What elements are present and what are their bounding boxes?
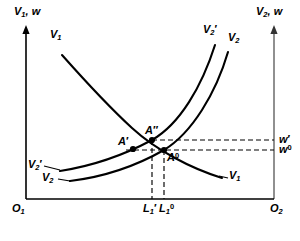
l1z-sup: 0: [170, 202, 174, 211]
economics-diagram: V1, w V2, w V1 V1 V2′ V2 V2′ V2 A″ A′ A0…: [0, 0, 300, 241]
a2-prime: ″: [153, 124, 158, 136]
a1-letter: A: [118, 135, 126, 147]
leader-v2-left: [58, 179, 70, 181]
leader-v2-prime-left: [44, 166, 60, 170]
o1-letter: O: [12, 202, 21, 214]
curve-label-v1-bottom: V1: [229, 170, 241, 182]
o1-sub: 1: [21, 207, 25, 216]
curve-label-v2-left: V2: [42, 172, 54, 184]
curve-v2-prime: [60, 45, 215, 171]
v2-left-sub: 2: [49, 176, 53, 185]
tick-label-l1-prime: L1′: [143, 203, 157, 215]
a0-letter: A: [167, 151, 175, 163]
curve-label-v2-prime-left: V2′: [28, 159, 42, 171]
point-label-a-zero: A0: [167, 152, 179, 163]
left-axis-arrowhead: [22, 25, 29, 34]
w-zero-letter: w: [279, 143, 288, 155]
l1p-letter: L: [143, 202, 150, 214]
a0-sup: 0: [175, 151, 179, 160]
v1-top-sub: 1: [57, 33, 61, 42]
left-axis-title: V1, w: [14, 6, 40, 18]
v2-top-sub: 2: [235, 36, 239, 45]
o2-sub: 2: [279, 207, 283, 216]
point-label-a-double-prime: A″: [145, 125, 158, 136]
l1p-prime: ′: [154, 202, 157, 214]
curve-label-v2-top: V2: [228, 32, 240, 44]
curve-label-v2-prime-top: V2′: [203, 24, 217, 36]
origin-label-o1: O1: [12, 203, 25, 215]
origin-label-o2: O2: [270, 203, 283, 215]
l1z-letter: L: [159, 202, 166, 214]
tick-label-l1-zero: L10: [159, 203, 174, 215]
point-a-double-prime: [149, 137, 155, 143]
curve-label-v1-top: V1: [50, 29, 62, 41]
v2p-left-prime: ′: [40, 158, 43, 170]
point-label-a-prime: A′: [118, 136, 129, 147]
wage-label-w-zero: w0: [279, 144, 292, 155]
right-axis-title-rest: , w: [268, 5, 283, 17]
v1-bottom-sub: 1: [236, 174, 240, 183]
w-zero-sup: 0: [288, 143, 292, 152]
points-group: [130, 137, 167, 153]
point-a-prime: [130, 146, 136, 152]
a1-prime: ′: [126, 135, 129, 147]
o2-letter: O: [270, 202, 279, 214]
right-axis-title: V2, w: [256, 6, 282, 18]
a2-letter: A: [145, 124, 153, 136]
v2p-top-prime: ′: [215, 23, 218, 35]
curves-group: [60, 45, 228, 181]
right-axis-arrowhead: [270, 25, 277, 34]
left-axis-title-rest: , w: [26, 5, 41, 17]
